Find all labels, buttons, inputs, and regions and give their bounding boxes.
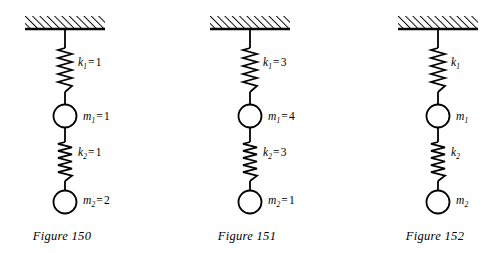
- spring-2-label: k2=1: [78, 146, 102, 161]
- mass-1-equals: [468, 110, 470, 122]
- mass-2-equals: =: [280, 194, 289, 206]
- figure-caption: Figure 151: [164, 229, 330, 244]
- mass-2-value: 2: [104, 194, 110, 206]
- figure-group: k1 m1 k2 m2 Figure 152: [352, 0, 499, 253]
- spring-1-label: k1=1: [78, 56, 102, 71]
- mass-2-label: m2=1: [268, 194, 295, 209]
- spring-2: [58, 142, 72, 181]
- mass-1-circle: [427, 105, 450, 128]
- mass-spring-diagram: [164, 0, 330, 220]
- spring-2: [243, 142, 257, 181]
- spring-1-equals: =: [87, 56, 96, 68]
- mass-1-symbol: m: [83, 110, 92, 122]
- figure-caption: Figure 150: [0, 229, 145, 244]
- spring-1-label: k1: [451, 56, 462, 71]
- spring-1: [431, 48, 445, 92]
- spring-1: [243, 48, 257, 92]
- spring-2-equals: =: [87, 146, 96, 158]
- figure-caption: Figure 152: [352, 229, 499, 244]
- spring-1: [58, 48, 72, 92]
- mass-2-symbol: m: [83, 194, 92, 206]
- spring-2-equals: [460, 146, 462, 158]
- mass-2-equals: =: [95, 194, 104, 206]
- mass-1-circle: [54, 105, 77, 128]
- ceiling-hatching: [25, 16, 105, 29]
- mass-1-symbol: m: [268, 110, 277, 122]
- mass-2-symbol: m: [456, 194, 465, 206]
- mass-1-value: 4: [289, 110, 295, 122]
- mass-1-label: m1=1: [83, 110, 110, 125]
- mass-2-circle: [239, 191, 262, 214]
- mass-2-value: 1: [289, 194, 295, 206]
- mass-1-equals: =: [95, 110, 104, 122]
- figure-group: k1=1 m1=1 k2=1 m2=2 Figure 150: [0, 0, 145, 253]
- spring-1-value: 1: [96, 56, 102, 68]
- mass-1-equals: =: [280, 110, 289, 122]
- mass-1-symbol: m: [456, 110, 465, 122]
- spring-1-equals: =: [272, 56, 281, 68]
- spring-2-value: 3: [281, 146, 287, 158]
- spring-1-label: k1=3: [263, 56, 287, 71]
- spring-1-value: 3: [281, 56, 287, 68]
- mass-2-label: m2=2: [83, 194, 110, 209]
- mass-1-label: m1: [456, 110, 470, 125]
- figure-group: k1=3 m1=4 k2=3 m2=1 Figure 151: [164, 0, 330, 253]
- mass-1-label: m1=4: [268, 110, 295, 125]
- mass-2-symbol: m: [268, 194, 277, 206]
- spring-2-label: k2=3: [263, 146, 287, 161]
- mass-2-circle: [427, 191, 450, 214]
- mass-1-circle: [239, 105, 262, 128]
- mass-1-value: 1: [104, 110, 110, 122]
- ceiling-hatching: [210, 16, 290, 29]
- spring-2: [431, 142, 445, 181]
- mass-2-circle: [54, 191, 77, 214]
- mass-2-label: m2: [456, 194, 470, 209]
- spring-2-equals: =: [272, 146, 281, 158]
- spring-2-label: k2: [451, 146, 462, 161]
- mass-2-equals: [468, 194, 470, 206]
- mass-spring-diagram: [0, 0, 145, 220]
- figures-canvas: k1=1 m1=1 k2=1 m2=2 Figure 150 k1=3 m1=4…: [0, 0, 499, 253]
- spring-1-equals: [460, 56, 462, 68]
- spring-2-value: 1: [96, 146, 102, 158]
- ceiling-hatching: [398, 16, 478, 29]
- mass-spring-diagram: [352, 0, 499, 220]
